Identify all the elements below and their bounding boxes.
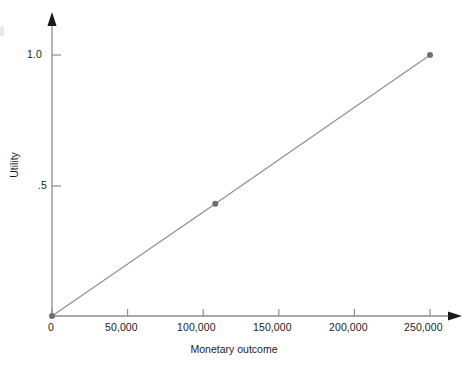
x-tick-label-0: 0	[48, 321, 54, 333]
x-tick-label-200000: 200,000	[329, 321, 368, 333]
y-tick-label-1.0: 1.0	[27, 48, 42, 60]
y-axis-arrow-icon	[47, 12, 56, 26]
utility-line	[52, 55, 430, 316]
x-tick-label-250000: 250,000	[404, 321, 443, 333]
x-axis-arrow-icon	[448, 311, 462, 320]
data-point	[49, 313, 55, 319]
data-point	[427, 52, 433, 58]
x-tick-label-150000: 150,000	[253, 321, 292, 333]
x-tick-label-50000: 50,000	[105, 321, 138, 333]
x-tick-label-100000: 100,000	[177, 321, 216, 333]
chart-figure: Utility 0 50,000 100,000 150,000 200,000…	[0, 0, 468, 365]
x-axis-title: Monetary outcome	[0, 343, 468, 355]
chart-plot-area: Utility	[0, 0, 468, 365]
data-point	[212, 201, 218, 207]
y-tick-label-0.5: .5	[38, 179, 47, 191]
y-axis-title: Utility	[8, 151, 20, 177]
